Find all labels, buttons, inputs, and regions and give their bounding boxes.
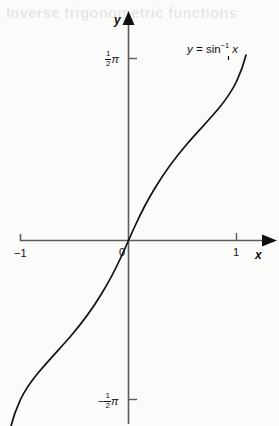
curve-label-exponent: −1 (221, 41, 230, 50)
pi-symbol: π (111, 53, 118, 65)
curve-label-x: x (232, 43, 238, 55)
origin-label: 0 (119, 247, 125, 258)
curve-label-sin: sin (206, 43, 221, 55)
curve-equation-label: y = sin−1 x (187, 44, 238, 56)
y-axis-arrowhead (123, 11, 135, 25)
y-tick-label-negative-half-pi: − 1 2 π (98, 392, 118, 410)
y-axis-label: y (114, 14, 121, 26)
curve-label-equals: = (196, 43, 203, 55)
x-axis-label: x (255, 249, 262, 261)
pi-symbol: π (111, 395, 118, 407)
x-axis-arrowhead (262, 235, 277, 247)
x-tick-label-negative-one: −1 (14, 248, 27, 259)
x-tick-label-one: 1 (233, 247, 239, 258)
plot-canvas (0, 0, 279, 426)
y-tick-label-half-pi: 1 2 π (105, 50, 119, 68)
curve-label-y: y (187, 43, 193, 55)
figure-arcsine-graph: Inverse trigonometric functions y x 1 2 … (0, 0, 279, 426)
